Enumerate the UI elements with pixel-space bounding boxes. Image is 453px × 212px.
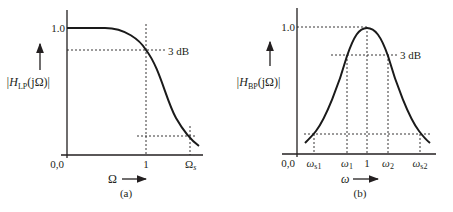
panel-a-x-tick-omegas: Ωs [185, 158, 196, 172]
panel-b-x-tick-omega2: ω2 [382, 157, 394, 171]
filter-response-diagram: 1.0 3 dB 0,0 1 Ωs |HLP(jΩ)| Ω (a) 1.0 [0, 0, 453, 212]
panel-b-y-label: |HBP(jΩ)| [236, 75, 280, 91]
panel-b-x-tick-omega1: ω1 [341, 157, 353, 171]
panel-b-caption: (b) [354, 187, 367, 200]
panel-b-origin-label: 0,0 [281, 157, 295, 169]
panel-a-lowpass: 1.0 3 dB 0,0 1 Ωs |HLP(jΩ)| Ω (a) [6, 10, 203, 200]
panel-b-x-tick-omegas1: ωs1 [307, 157, 322, 171]
panel-a-y-tick-1: 1.0 [51, 22, 65, 34]
panel-b-x-tick-1: 1 [364, 157, 370, 169]
panel-a-x-tick-1: 1 [143, 158, 149, 170]
panel-b-x-label: ω [341, 172, 349, 186]
panel-b-y-tick-1: 1.0 [281, 21, 295, 33]
panel-a-x-label: Ω [108, 172, 117, 186]
panel-b-3db-label: 3 dB [400, 49, 421, 61]
panel-b-bandpass-curve [305, 28, 430, 143]
panel-a-origin-label: 0,0 [50, 158, 64, 170]
panel-a-3db-label: 3 dB [168, 45, 189, 57]
panel-a-caption: (a) [120, 187, 133, 200]
panel-b-x-tick-omegas2: ωs2 [413, 157, 428, 171]
panel-a-y-label: |HLP(jΩ)| [6, 75, 50, 91]
panel-b-bandpass: 1.0 3 dB 0,0 ωs1 ω1 1 ω2 ωs2 |HBP(jΩ)| ω… [236, 8, 436, 200]
